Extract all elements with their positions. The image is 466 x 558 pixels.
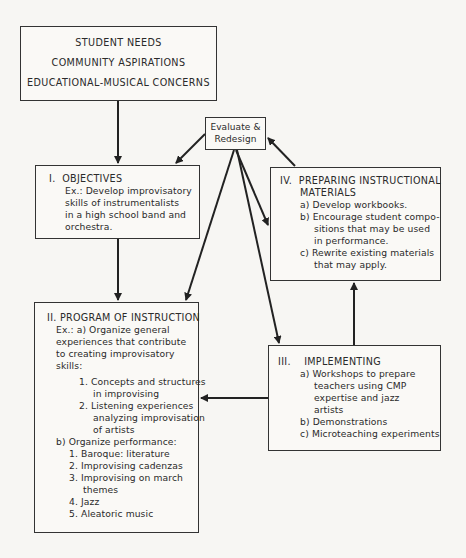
- preparing-number: IV.: [280, 175, 292, 186]
- item-marker: b): [300, 211, 310, 222]
- item-text: Improvising on march: [81, 472, 183, 483]
- implementing-number: III.: [278, 356, 291, 367]
- objectives-heading: I. OBJECTIVES: [49, 173, 199, 185]
- program-intro: to creating improvisatory: [53, 348, 198, 360]
- inputs-student-needs: STUDENT NEEDS: [21, 37, 216, 49]
- preparing-heading: IV. PREPARING INSTRUCTIONAL: [280, 175, 440, 187]
- item-marker: b): [300, 416, 310, 427]
- implementing-item-c: c) Microteaching experiments: [278, 428, 440, 440]
- item-marker: 2.: [69, 460, 78, 471]
- preparing-title-2: MATERIALS: [280, 187, 440, 199]
- item-text: themes: [53, 484, 198, 496]
- program-intro: experiences that contribute: [53, 336, 198, 348]
- item-marker: 4.: [69, 496, 78, 507]
- arrow-evaluate-to-objectives: [176, 134, 205, 163]
- implementing-title: IMPLEMENTING: [304, 356, 381, 367]
- program-intro: skills:: [53, 360, 198, 372]
- program-b-item-1: 1. Baroque: literature: [53, 448, 198, 460]
- item-marker: a): [300, 199, 309, 210]
- item-text: Concepts and structures: [91, 376, 206, 387]
- item-text: in improvising: [53, 388, 198, 400]
- preparing-item-a: a) Develop workbooks.: [280, 199, 440, 211]
- objectives-box: I. OBJECTIVES Ex.: Develop improvisatory…: [35, 165, 200, 239]
- preparing-item-b: b) Encourage student compo-: [280, 211, 440, 223]
- preparing-item-c: c) Rewrite existing materials: [280, 247, 440, 259]
- item-marker: a): [300, 368, 309, 379]
- item-text: Encourage student compo-: [313, 211, 440, 222]
- preparing-materials-box: IV. PREPARING INSTRUCTIONAL MATERIALS a)…: [270, 167, 441, 281]
- item-text: Microteaching experiments: [312, 428, 440, 439]
- item-text: Aleatoric music: [81, 508, 153, 519]
- arrow-preparing-to-evaluate: [268, 138, 295, 166]
- item-marker: 5.: [69, 508, 78, 519]
- program-heading: II. PROGRAM OF INSTRUCTION: [47, 312, 198, 324]
- objectives-line: Ex.: Develop improvisatory: [49, 185, 199, 197]
- program-b-item-5: 5. Aleatoric music: [53, 508, 198, 520]
- item-text: Baroque: literature: [81, 448, 170, 459]
- program-a-item-1: 1. Concepts and structures: [53, 376, 198, 388]
- program-number: II.: [47, 312, 57, 323]
- objectives-title: OBJECTIVES: [62, 173, 122, 184]
- program-b-item-2: 2. Improvising cadenzas: [53, 460, 198, 472]
- item-text: expertise and jazz: [278, 392, 440, 404]
- item-marker: c): [300, 428, 309, 439]
- item-text: Jazz: [81, 496, 99, 507]
- evaluate-redesign-box: Evaluate & Redesign: [205, 117, 266, 150]
- item-text: artists: [278, 404, 440, 416]
- program-title: PROGRAM OF INSTRUCTION: [60, 312, 200, 323]
- item-text: Develop workbooks.: [312, 199, 407, 210]
- objectives-number: I.: [49, 173, 55, 184]
- evaluate-line-2: Redesign: [206, 133, 265, 145]
- program-intro: Ex.: a) Organize general: [53, 324, 198, 336]
- program-b-item-4: 4. Jazz: [53, 496, 198, 508]
- objectives-line: in a high school band and: [49, 209, 199, 221]
- item-text: Improvising cadenzas: [81, 460, 183, 471]
- item-text: of artists: [53, 424, 198, 436]
- item-text: that may apply.: [280, 259, 440, 271]
- item-text: Workshops to prepare: [312, 368, 415, 379]
- preparing-title-1: PREPARING INSTRUCTIONAL: [299, 175, 441, 186]
- item-text: Rewrite existing materials: [312, 247, 434, 258]
- program-b-item-3: 3. Improvising on march: [53, 472, 198, 484]
- item-text: Demonstrations: [313, 416, 388, 427]
- objectives-line: skills of instrumentalists: [49, 197, 199, 209]
- item-marker: 1.: [79, 376, 88, 387]
- item-marker: 3.: [69, 472, 78, 483]
- inputs-educational-concerns: EDUCATIONAL-MUSICAL CONCERNS: [21, 77, 216, 89]
- item-text: in performance.: [280, 235, 440, 247]
- inputs-box: STUDENT NEEDS COMMUNITY ASPIRATIONS EDUC…: [20, 26, 217, 101]
- program-b-label: b) Organize performance:: [53, 436, 198, 448]
- implementing-item-b: b) Demonstrations: [278, 416, 440, 428]
- item-text: teachers using CMP: [278, 380, 440, 392]
- objectives-line: orchestra.: [49, 221, 199, 233]
- implementing-item-a: a) Workshops to prepare: [278, 368, 440, 380]
- item-marker: 1.: [69, 448, 78, 459]
- item-text: sitions that may be used: [280, 223, 440, 235]
- implementing-heading: III. IMPLEMENTING: [278, 356, 440, 368]
- implementing-box: III. IMPLEMENTING a) Workshops to prepar…: [268, 345, 441, 451]
- arrow-evaluate-to-preparing: [236, 150, 268, 225]
- item-marker: 2.: [79, 400, 88, 411]
- item-text: analyzing improvisation: [53, 412, 198, 424]
- inputs-community-aspirations: COMMUNITY ASPIRATIONS: [21, 57, 216, 69]
- evaluate-line-1: Evaluate &: [206, 121, 265, 133]
- item-text: Listening experiences: [91, 400, 193, 411]
- item-marker: c): [300, 247, 309, 258]
- program-a-item-2: 2. Listening experiences: [53, 400, 198, 412]
- program-instruction-box: II. PROGRAM OF INSTRUCTION Ex.: a) Organ…: [34, 302, 199, 533]
